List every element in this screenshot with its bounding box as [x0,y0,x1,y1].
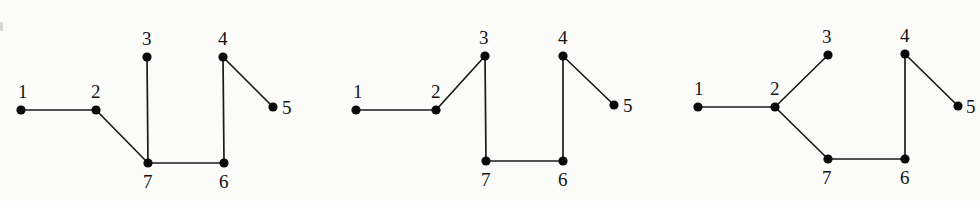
graph-node-label-6: 6 [900,167,910,188]
graph-node-3 [480,51,489,60]
graph-edge-2-7 [96,110,148,163]
graph-edge-4-5 [223,57,273,107]
graph-2: 1234567 [351,27,632,190]
graph-node-label-1: 1 [353,81,363,102]
graph-edge-3-7 [147,57,148,163]
graph-node-5 [953,101,962,110]
graph-edge-2-3 [436,56,485,110]
graph-node-5 [268,102,277,111]
graph-node-1 [16,105,25,114]
graph-node-label-5: 5 [966,96,976,117]
graph-edge-3-7 [485,56,486,161]
graph-node-3 [142,52,151,61]
graph-node-4 [218,52,227,61]
graph-edge-4-5 [905,54,958,106]
graph-node-label-6: 6 [219,171,229,192]
graph-node-label-3: 3 [142,28,152,49]
graph-figure: 123456712345671234567 [0,0,980,201]
graph-3: 1234567 [693,25,975,188]
graph-node-4 [900,49,909,58]
graph-node-5 [609,100,618,109]
graph-node-7 [481,156,490,165]
graph-diagram-canvas: 123456712345671234567 [0,0,980,201]
graph-node-label-2: 2 [91,81,101,102]
graph-node-label-7: 7 [481,169,491,190]
graph-edge-4-5 [563,56,614,105]
graph-node-label-5: 5 [623,95,633,116]
graph-node-1 [693,102,702,111]
graph-edge-2-3 [775,55,828,107]
graph-edge-2-7 [775,107,828,159]
graph-node-label-1: 1 [694,78,704,99]
graph-node-4 [558,51,567,60]
graph-node-label-2: 2 [431,81,441,102]
graph-node-label-4: 4 [218,28,228,49]
graph-node-label-7: 7 [822,167,832,188]
graph-node-label-4: 4 [558,27,568,48]
graph-node-label-7: 7 [143,171,153,192]
graph-node-7 [143,158,152,167]
scan-speck-left-margin [0,22,3,31]
graph-1: 1234567 [16,28,291,192]
graph-node-2 [91,105,100,114]
graph-node-label-3: 3 [479,27,489,48]
graph-node-6 [558,156,567,165]
graph-node-1 [351,105,360,114]
graph-node-label-1: 1 [18,81,28,102]
graph-node-6 [900,154,909,163]
graph-node-label-3: 3 [822,26,832,47]
graph-node-2 [770,102,779,111]
graph-node-label-5: 5 [282,97,292,118]
graph-node-label-6: 6 [558,169,568,190]
graph-node-label-2: 2 [770,78,780,99]
graph-edge-6-4 [223,57,224,163]
graph-node-7 [823,154,832,163]
graph-node-3 [823,50,832,59]
graph-node-2 [431,105,440,114]
graph-node-label-4: 4 [900,25,910,46]
graph-node-6 [219,158,228,167]
